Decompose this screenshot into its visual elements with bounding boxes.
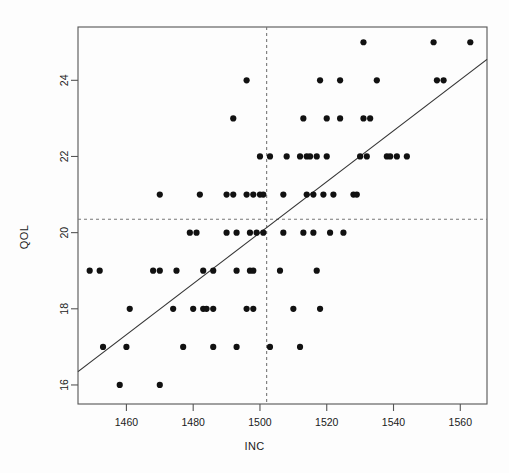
data-point [267,344,273,350]
data-point [430,39,436,45]
data-point [157,268,163,274]
data-point [314,268,320,274]
y-axis-title: QOL [0,0,54,473]
data-point [394,153,400,159]
data-point [170,306,176,312]
data-point [200,268,206,274]
data-point [434,77,440,83]
data-point [150,268,156,274]
x-axis-tick-label: 1520 [315,416,339,428]
data-point [267,153,273,159]
x-axis-tick-label: 1500 [248,416,272,428]
data-point [404,153,410,159]
data-point-group [87,39,474,388]
data-point [187,230,193,236]
data-point [337,115,343,121]
regression-line [78,59,487,371]
data-point [190,306,196,312]
data-point [467,39,473,45]
x-axis-title: INC [0,440,509,452]
data-point [277,268,283,274]
plot-canvas: 1460148015001520154015601618202224 [0,0,509,473]
data-point [364,153,370,159]
data-point [230,115,236,121]
data-point [260,191,266,197]
data-point [310,191,316,197]
data-point [223,230,229,236]
data-point [250,306,256,312]
data-point [360,115,366,121]
x-axis-tick-label: 1480 [182,416,206,428]
data-point [210,268,216,274]
y-axis-tick-label: 18 [58,303,70,315]
data-point [257,153,263,159]
data-point [250,191,256,197]
x-axis-tick-label: 1560 [449,416,473,428]
data-point [297,153,303,159]
y-axis-tick-label: 16 [58,379,70,391]
x-axis-tick-label: 1460 [115,416,139,428]
data-point [173,268,179,274]
data-point [157,382,163,388]
data-point [157,191,163,197]
data-point [260,230,266,236]
data-point [244,191,250,197]
data-point [244,77,250,83]
data-point [440,77,446,83]
data-point [387,153,393,159]
data-point [300,230,306,236]
data-point [354,191,360,197]
data-point [203,306,209,312]
data-point [317,77,323,83]
data-point [127,306,133,312]
data-point [304,191,310,197]
data-point [97,268,103,274]
data-point [197,191,203,197]
data-point [100,344,106,350]
data-point [123,344,129,350]
data-point [337,77,343,83]
y-axis-tick-label: 24 [58,74,70,86]
y-axis-tick-label: 22 [58,150,70,162]
data-point [223,191,229,197]
data-point [297,344,303,350]
data-point [340,230,346,236]
data-point [327,230,333,236]
data-point [247,230,253,236]
data-point [280,191,286,197]
data-point [210,306,216,312]
data-point [210,344,216,350]
data-point [117,382,123,388]
data-point [233,344,239,350]
data-point [233,230,239,236]
data-point [244,306,250,312]
y-axis-tick-label: 20 [58,227,70,239]
data-point [87,268,93,274]
data-point [180,344,186,350]
data-point [230,191,236,197]
data-point [324,115,330,121]
data-point [317,306,323,312]
data-point [367,115,373,121]
data-point [374,77,380,83]
data-point [300,115,306,121]
data-point [280,230,286,236]
y-axis-title-text: QOL [18,224,30,248]
data-point [307,153,313,159]
data-point [254,230,260,236]
data-point [250,268,256,274]
data-point [320,191,326,197]
x-axis-tick-label: 1540 [382,416,406,428]
scatter-plot-figure: 1460148015001520154015601618202224 INC Q… [0,0,509,473]
data-point [290,306,296,312]
data-point [284,153,290,159]
data-point [233,268,239,274]
data-point [324,153,330,159]
data-point [314,153,320,159]
data-point [360,39,366,45]
data-point [357,153,363,159]
data-point [193,230,199,236]
data-point [310,230,316,236]
data-point [330,191,336,197]
